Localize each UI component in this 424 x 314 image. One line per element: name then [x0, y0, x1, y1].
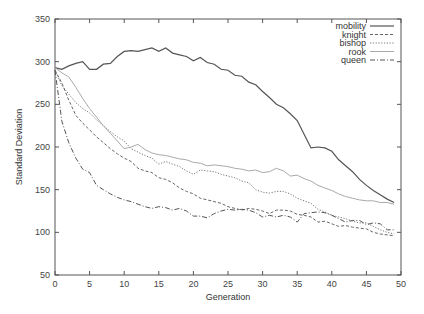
- line-chart: 05101520253035404550 5010015020025030035…: [0, 0, 424, 314]
- x-tick-label: 20: [188, 279, 198, 289]
- legend-label-queen: queen: [341, 55, 366, 65]
- y-tick-label: 200: [35, 142, 50, 152]
- x-tick-label: 0: [52, 279, 57, 289]
- x-tick-label: 35: [292, 279, 302, 289]
- series-mobility: [55, 48, 394, 203]
- series-knight: [55, 70, 394, 236]
- x-axis-label: Generation: [206, 292, 251, 302]
- x-tick-label: 45: [361, 279, 371, 289]
- y-axis-ticks: 50100150200250300350: [35, 14, 401, 280]
- y-tick-label: 50: [40, 270, 50, 280]
- x-tick-label: 15: [154, 279, 164, 289]
- series-lines: [55, 48, 394, 236]
- x-tick-label: 25: [223, 279, 233, 289]
- legend: mobilityknightbishoprookqueen: [335, 21, 394, 65]
- series-bishop: [55, 70, 394, 234]
- y-tick-label: 350: [35, 14, 50, 24]
- x-tick-label: 50: [396, 279, 406, 289]
- y-tick-label: 100: [35, 227, 50, 237]
- y-tick-label: 150: [35, 185, 50, 195]
- y-tick-label: 250: [35, 99, 50, 109]
- y-tick-label: 300: [35, 57, 50, 67]
- x-tick-label: 40: [327, 279, 337, 289]
- series-queen: [55, 70, 394, 230]
- x-tick-label: 10: [119, 279, 129, 289]
- x-tick-label: 5: [87, 279, 92, 289]
- y-axis-label: Standard Deviation: [14, 109, 24, 186]
- x-tick-label: 30: [258, 279, 268, 289]
- series-rook: [55, 68, 394, 205]
